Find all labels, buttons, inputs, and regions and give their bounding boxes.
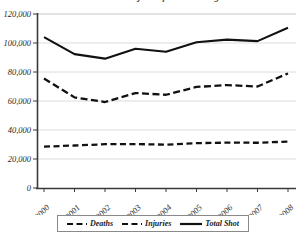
legend-item-total-shot[interactable]: Total Shot bbox=[180, 219, 239, 228]
x-tick-label: 2006 bbox=[215, 202, 235, 215]
chart-container: Deaths and Injuries from Shootings bbox=[0, 0, 305, 237]
plot-area: 120,000 100,000 80,000 60,000 40,000 20,… bbox=[0, 0, 305, 215]
y-axis-labels: 120,000 100,000 80,000 60,000 40,000 20,… bbox=[3, 9, 31, 193]
x-tick-label: 2003 bbox=[124, 202, 143, 215]
legend-swatch-dashed-icon bbox=[67, 221, 87, 227]
legend-swatch-solid-icon bbox=[180, 221, 202, 227]
legend-swatch-dashed-icon bbox=[122, 221, 142, 227]
data-series-group bbox=[44, 28, 288, 147]
x-tick-label: 2001 bbox=[63, 202, 82, 215]
y-tick-label: 20,000 bbox=[8, 154, 32, 164]
y-tick-label: 60,000 bbox=[8, 96, 32, 106]
legend-label: Total Shot bbox=[205, 219, 239, 228]
x-tick-label: 2000 bbox=[32, 202, 52, 215]
x-tick-label: 2004 bbox=[154, 202, 174, 215]
legend-item-injuries[interactable]: Injuries bbox=[122, 219, 171, 228]
series-line-deaths bbox=[44, 142, 288, 147]
legend-item-deaths[interactable]: Deaths bbox=[67, 219, 113, 228]
y-tick-label: 100,000 bbox=[3, 38, 31, 48]
y-tick-label: 120,000 bbox=[3, 9, 31, 19]
x-tick-label: 2008 bbox=[276, 202, 296, 215]
x-tick-label: 2005 bbox=[185, 202, 204, 215]
legend-label: Deaths bbox=[90, 219, 113, 228]
y-tick-marks bbox=[33, 14, 37, 188]
legend-label: Injuries bbox=[145, 219, 171, 228]
x-tick-label: 2007 bbox=[246, 202, 266, 215]
x-axis-labels: 2000 2001 2002 2003 2004 2005 2006 2007 … bbox=[32, 202, 296, 215]
chart-legend: Deaths Injuries Total Shot bbox=[57, 215, 249, 232]
x-tick-label: 2002 bbox=[93, 202, 113, 215]
series-line-injuries bbox=[44, 73, 288, 102]
y-tick-label: 0 bbox=[27, 183, 32, 193]
y-tick-label: 80,000 bbox=[8, 67, 32, 77]
y-tick-label: 40,000 bbox=[8, 125, 32, 135]
